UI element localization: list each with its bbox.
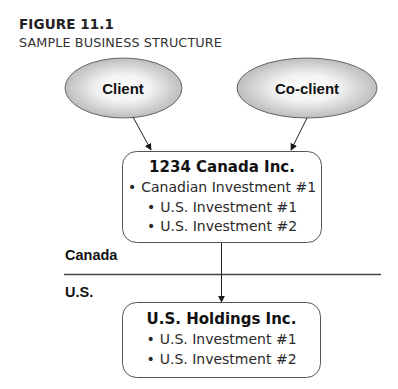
bullet-icon: •: [146, 330, 154, 350]
us-holdings-item: •U.S. Investment #1: [122, 330, 321, 350]
canada-inc-title: 1234 Canada Inc.: [122, 157, 322, 178]
canada-inc-content: 1234 Canada Inc. •Canadian Investment #1…: [122, 157, 322, 237]
bullet-icon: •: [128, 178, 136, 198]
bullet-icon: •: [147, 198, 155, 218]
item-text: Canadian Investment #1: [141, 179, 316, 195]
us-holdings-content: U.S. Holdings Inc. •U.S. Investment #1 •…: [122, 309, 321, 369]
coclient-label: Co-client: [275, 80, 339, 97]
canada-inc-item: •U.S. Investment #1: [122, 198, 322, 218]
client-label: Client: [102, 80, 144, 97]
canada-inc-item: •U.S. Investment #2: [122, 217, 322, 237]
item-text: U.S. Investment #1: [160, 331, 297, 347]
arrow-coclient-to-canada: [291, 118, 307, 150]
us-holdings-item: •U.S. Investment #2: [122, 350, 321, 370]
bullet-icon: •: [146, 350, 154, 370]
region-label-canada: Canada: [65, 247, 117, 263]
item-text: U.S. Investment #2: [160, 351, 297, 367]
region-label-us: U.S.: [65, 284, 93, 300]
bullet-icon: •: [147, 217, 155, 237]
arrow-client-to-canada: [133, 117, 151, 150]
item-text: U.S. Investment #2: [160, 218, 297, 234]
canada-inc-item: •Canadian Investment #1: [122, 178, 322, 198]
us-holdings-title: U.S. Holdings Inc.: [122, 309, 321, 330]
item-text: U.S. Investment #1: [160, 199, 297, 215]
